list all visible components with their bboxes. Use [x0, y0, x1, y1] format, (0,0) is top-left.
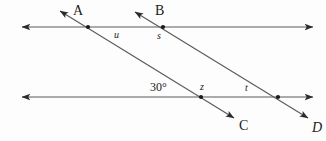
intersection-a-lower	[199, 95, 203, 99]
label-angle-z: z	[200, 82, 204, 92]
geometry-diagram: A B C D u s z t 30°	[0, 0, 326, 141]
label-point-b: B	[155, 4, 164, 18]
intersection-b-upper	[161, 25, 165, 29]
label-angle-30-degrees: 30°	[150, 81, 167, 93]
label-angle-u: u	[114, 30, 119, 40]
label-angle-s: s	[157, 31, 161, 41]
line-b-d	[135, 12, 308, 118]
intersection-a-upper	[86, 25, 90, 29]
label-point-c: C	[239, 119, 248, 133]
label-point-a: A	[73, 4, 83, 18]
intersection-b-lower	[276, 95, 280, 99]
label-point-d: D	[312, 121, 322, 135]
diagram-canvas	[0, 0, 326, 141]
label-angle-t: t	[245, 83, 248, 93]
